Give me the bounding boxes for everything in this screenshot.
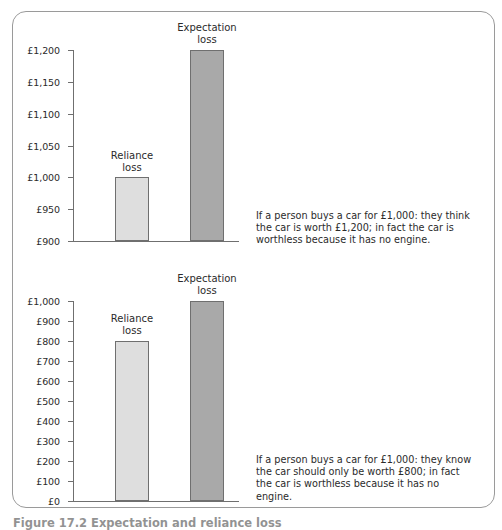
y-tick-top-1: £1,150 [68, 82, 73, 83]
y-tick-label-top-3: £1,050 [27, 140, 60, 151]
y-tick-bottom-5: £500 [68, 401, 73, 402]
x-axis-top [73, 241, 239, 242]
note-bottom: If a person buys a car for £1,000: they … [256, 454, 472, 503]
y-axis-bottom [73, 301, 74, 501]
y-tick-bottom-3: £700 [68, 361, 73, 362]
plot-area-top: £1,200 £1,150 £1,100 £1,050 £1,000 £950 … [73, 50, 239, 241]
bar-expectation-loss-top [190, 50, 224, 241]
y-tick-label-bottom-1: £900 [36, 316, 60, 327]
y-tick-top-3: £1,050 [68, 146, 73, 147]
y-tick-label-top-2: £1,100 [27, 108, 60, 119]
y-tick-label-bottom-6: £400 [36, 416, 60, 427]
y-tick-label-top-1: £1,150 [27, 76, 60, 87]
figure-frame: £1,200 £1,150 £1,100 £1,050 £1,000 £950 … [12, 11, 495, 508]
figure-caption: Figure 17.2 Expectation and reliance los… [13, 516, 282, 530]
bar-reliance-loss-bottom [115, 341, 149, 501]
y-tick-top-0: £1,200 [68, 50, 73, 51]
y-tick-top-4: £1,000 [68, 177, 73, 178]
y-axis-top [73, 50, 74, 241]
plot-area-bottom: £1,000 £900 £800 £700 £600 £500 £400 £30… [73, 301, 239, 501]
bar-label-reliance-loss-bottom: Reliance loss [87, 313, 177, 337]
y-tick-top-2: £1,100 [68, 114, 73, 115]
y-tick-bottom-1: £900 [68, 321, 73, 322]
y-tick-bottom-0: £1,000 [68, 301, 73, 302]
chart-panel-top: £1,200 £1,150 £1,100 £1,050 £1,000 £950 … [13, 12, 496, 262]
bar-label-expectation-loss-top: Expectation loss [152, 22, 262, 46]
y-tick-label-bottom-9: £100 [36, 476, 60, 487]
y-tick-bottom-9: £100 [68, 481, 73, 482]
y-tick-bottom-10: £0 [68, 501, 73, 502]
y-tick-label-bottom-2: £800 [36, 336, 60, 347]
y-tick-bottom-7: £300 [68, 441, 73, 442]
bar-expectation-loss-bottom [190, 301, 224, 501]
y-tick-top-5: £950 [68, 209, 73, 210]
y-tick-label-bottom-3: £700 [36, 356, 60, 367]
y-tick-label-top-6: £900 [36, 236, 60, 247]
bar-label-expectation-loss-bottom: Expectation loss [152, 273, 262, 297]
y-tick-top-6: £900 [68, 241, 73, 242]
y-tick-label-top-0: £1,200 [27, 45, 60, 56]
y-tick-label-bottom-5: £500 [36, 396, 60, 407]
note-top: If a person buys a car for £1,000: they … [256, 210, 472, 247]
x-axis-bottom [73, 501, 239, 502]
y-tick-label-bottom-4: £600 [36, 376, 60, 387]
y-tick-label-top-4: £1,000 [27, 172, 60, 183]
y-tick-label-top-5: £950 [36, 204, 60, 215]
bar-label-reliance-loss-top: Reliance loss [87, 150, 177, 174]
chart-panel-bottom: £1,000 £900 £800 £700 £600 £500 £400 £30… [13, 262, 496, 509]
bar-reliance-loss-top [115, 177, 149, 241]
y-tick-label-bottom-0: £1,000 [27, 296, 60, 307]
y-tick-bottom-4: £600 [68, 381, 73, 382]
y-tick-label-bottom-10: £0 [48, 496, 60, 507]
y-tick-bottom-8: £200 [68, 461, 73, 462]
y-tick-bottom-2: £800 [68, 341, 73, 342]
y-tick-label-bottom-7: £300 [36, 436, 60, 447]
y-tick-label-bottom-8: £200 [36, 456, 60, 467]
y-tick-bottom-6: £400 [68, 421, 73, 422]
